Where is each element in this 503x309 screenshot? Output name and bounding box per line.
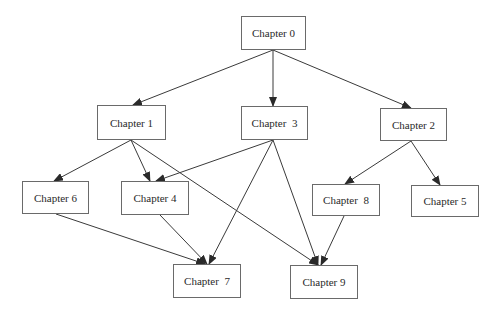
edge-ch0-to-ch1 bbox=[133, 50, 273, 105]
node-chapter-4: Chapter 4 bbox=[121, 181, 189, 215]
chapter-dependency-diagram: Chapter 0 Chapter 1 Chapter 3 Chapter 2 … bbox=[0, 0, 503, 309]
node-chapter-1: Chapter 1 bbox=[97, 105, 166, 140]
node-chapter-2: Chapter 2 bbox=[380, 108, 447, 141]
edge-ch2-to-ch5 bbox=[411, 141, 440, 185]
node-chapter-3: Chapter 3 bbox=[241, 106, 308, 140]
node-chapter-5: Chapter 5 bbox=[411, 185, 479, 217]
edge-ch8-to-ch9 bbox=[321, 216, 344, 265]
edge-ch0-to-ch2 bbox=[273, 50, 411, 108]
edge-ch1-to-ch6 bbox=[54, 140, 131, 181]
node-chapter-9: Chapter 9 bbox=[290, 265, 358, 299]
node-chapter-6: Chapter 6 bbox=[22, 181, 89, 214]
edge-ch2-to-ch8 bbox=[345, 141, 411, 184]
node-chapter-0: Chapter 0 bbox=[241, 16, 306, 50]
node-chapter-7: Chapter 7 bbox=[173, 264, 241, 298]
node-chapter-8: Chapter 8 bbox=[312, 184, 380, 216]
